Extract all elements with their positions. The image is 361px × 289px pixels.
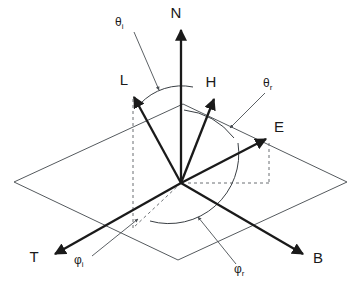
phi-r-leader [198,217,236,264]
label-t: T [29,248,38,265]
label-phi-i: φi [74,253,84,269]
vector-labels: N L H E T B [29,4,323,266]
vector-t-tangent [55,183,181,254]
brdf-geometry-diagram: N L H E T B θi θr φi φr [0,0,361,289]
theta-i-leader [134,32,159,90]
phi-r-subscript: r [242,269,245,278]
vector-h-half [181,99,214,183]
theta-r-leader [230,93,265,128]
vector-l-light [134,97,181,183]
label-phi-r: φr [234,262,245,278]
theta-i-subscript: i [122,22,124,31]
angle-labels: θi θr φi φr [74,15,273,278]
dashed-guides [133,99,269,228]
theta-r-subscript: r [270,83,273,92]
label-theta-i: θi [115,15,124,31]
theta-i-arc [140,86,193,104]
label-l: L [120,71,128,88]
vector-e-eye [181,139,266,183]
label-b: B [313,249,323,266]
label-e: E [274,118,284,135]
label-theta-r: θr [263,76,273,92]
label-h: H [206,73,217,90]
diagram-canvas: N L H E T B θi θr φi φr [0,0,361,289]
phi-i-subscript: i [82,260,84,269]
direction-vectors [55,30,303,254]
label-n: N [171,4,182,21]
